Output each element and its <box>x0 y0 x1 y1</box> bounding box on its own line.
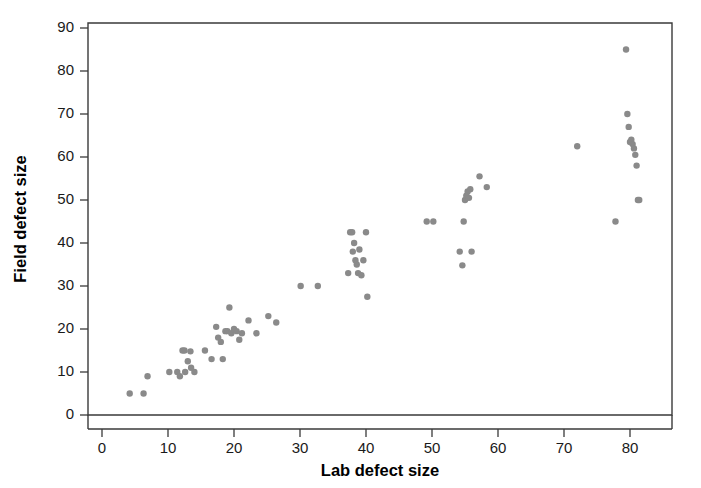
y-tick-label: 70 <box>57 104 74 121</box>
data-point <box>245 317 251 323</box>
data-point <box>185 358 191 364</box>
data-point <box>633 162 639 168</box>
x-tick-label: 70 <box>556 439 573 456</box>
data-point <box>631 145 637 151</box>
data-point <box>358 272 364 278</box>
x-tick-label: 20 <box>226 439 243 456</box>
data-point <box>202 347 208 353</box>
data-point <box>345 270 351 276</box>
y-tick-label: 40 <box>57 233 74 250</box>
data-point <box>466 195 472 201</box>
y-tick-label: 80 <box>57 61 74 78</box>
data-point <box>625 124 631 130</box>
data-point <box>182 369 188 375</box>
data-point <box>354 261 360 267</box>
data-point <box>236 337 242 343</box>
data-point <box>187 348 193 354</box>
x-tick-label: 0 <box>98 439 106 456</box>
data-point <box>360 257 366 263</box>
x-tick-label: 50 <box>424 439 441 456</box>
data-point <box>351 240 357 246</box>
plot-canvas: 01020304050607080 0102030405060708090 La… <box>0 0 701 488</box>
y-tick-label: 10 <box>57 362 74 379</box>
y-axis-ticks: 0102030405060708090 <box>57 18 88 422</box>
data-point <box>574 143 580 149</box>
data-point <box>457 248 463 254</box>
data-point <box>177 373 183 379</box>
data-point <box>632 152 638 158</box>
data-point <box>364 294 370 300</box>
data-point <box>430 218 436 224</box>
y-tick-label: 60 <box>57 147 74 164</box>
data-point <box>612 218 618 224</box>
data-point <box>636 197 642 203</box>
x-axis-title: Lab defect size <box>321 461 439 479</box>
data-point <box>350 248 356 254</box>
x-axis-ticks: 01020304050607080 <box>88 415 672 456</box>
y-tick-label: 20 <box>57 319 74 336</box>
y-tick-label: 0 <box>66 405 74 422</box>
data-point <box>213 324 219 330</box>
data-point <box>356 246 362 252</box>
data-point <box>127 390 133 396</box>
data-point <box>181 347 187 353</box>
data-point <box>424 218 430 224</box>
data-point <box>297 283 303 289</box>
data-point <box>623 46 629 52</box>
data-point <box>315 283 321 289</box>
y-tick-label: 30 <box>57 276 74 293</box>
data-point <box>144 373 150 379</box>
data-point <box>220 356 226 362</box>
data-point <box>218 339 224 345</box>
plot-frame <box>88 23 672 415</box>
data-point <box>140 390 146 396</box>
data-point <box>363 229 369 235</box>
data-point <box>273 319 279 325</box>
data-point <box>166 369 172 375</box>
data-point <box>476 173 482 179</box>
data-point <box>467 186 473 192</box>
data-point <box>191 369 197 375</box>
data-point <box>208 356 214 362</box>
data-point <box>459 262 465 268</box>
scatter-plot-figure: 01020304050607080 0102030405060708090 La… <box>0 0 701 488</box>
plot-border <box>88 23 672 415</box>
data-point <box>265 313 271 319</box>
data-point <box>349 229 355 235</box>
y-tick-label: 90 <box>57 18 74 35</box>
data-point <box>624 111 630 117</box>
data-point <box>460 218 466 224</box>
x-tick-label: 30 <box>292 439 309 456</box>
data-points-group <box>127 46 643 396</box>
y-tick-label: 50 <box>57 190 74 207</box>
y-axis-title: Field defect size <box>11 155 29 282</box>
x-tick-label: 40 <box>358 439 375 456</box>
data-point <box>239 330 245 336</box>
x-tick-label: 10 <box>160 439 177 456</box>
data-point <box>468 248 474 254</box>
data-point <box>253 330 259 336</box>
data-point <box>484 184 490 190</box>
data-point <box>226 304 232 310</box>
x-tick-label: 80 <box>622 439 639 456</box>
x-tick-label: 60 <box>490 439 507 456</box>
